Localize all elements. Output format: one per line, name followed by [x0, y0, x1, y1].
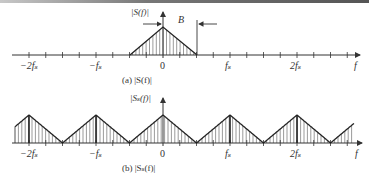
panel-a-tick-negfs: −fₛ — [89, 60, 102, 71]
panel-a-tick-neg2fs: −2fₛ — [20, 60, 38, 71]
panel-a-tick-0: 0 — [160, 60, 165, 71]
panel-a-tick-2fs: 2fₛ — [290, 60, 301, 71]
spectrum-diagram — [0, 0, 369, 186]
panel-a-x-label: f — [354, 60, 357, 71]
panel-a-caption: (a) |S(f)| — [122, 75, 152, 85]
bandwidth-label: B — [178, 14, 184, 25]
panel-a-y-label: |S(f)| — [131, 7, 149, 17]
panel-b-tick-negfs: −fₛ — [89, 148, 102, 159]
panel-b-tick-neg2fs: −2fₛ — [20, 148, 38, 159]
panel-b-tick-fs: fₛ — [225, 148, 231, 159]
panel-b-tick-2fs: 2fₛ — [290, 148, 301, 159]
panel-b-caption: (b) |Sₛ(f)| — [122, 163, 155, 173]
panel-b-y-label: |Sₛ(f)| — [130, 93, 151, 103]
panel-a-tick-fs: fₛ — [225, 60, 231, 71]
panel-b-x-label: f — [355, 148, 358, 159]
panel-b-plot — [12, 98, 362, 146]
panel-b-tick-0: 0 — [160, 148, 165, 159]
